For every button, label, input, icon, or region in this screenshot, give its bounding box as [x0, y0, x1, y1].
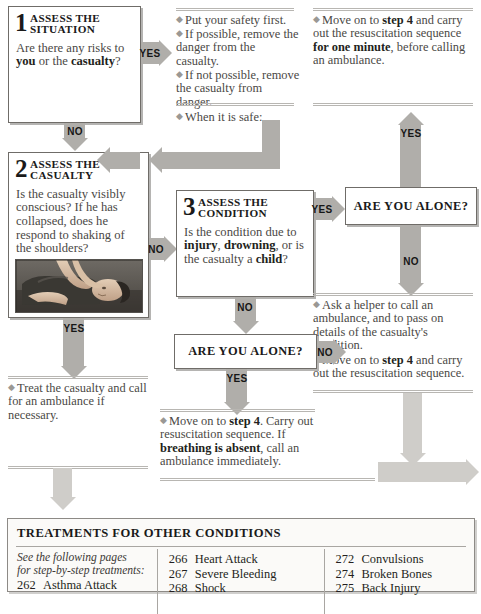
list-item[interactable]: 274 Broken Bones: [336, 567, 466, 582]
safety-note: ◆Put your safety first. ◆If possible, re…: [176, 13, 300, 124]
step-3-question: Is the condition due to injury, drowning…: [177, 220, 313, 271]
treat-note-rule: [8, 376, 148, 379]
label-alone-mid-yes: YES: [214, 373, 260, 384]
step-1-q-you: you: [16, 54, 36, 68]
entry-name: Shock: [195, 581, 324, 596]
treat-note: ◆Treat the casualty and call for an ambu…: [8, 381, 154, 422]
step-2-box: 2 ASSESS THECASUALTY Is the casualty vis…: [8, 152, 149, 318]
step-1-q-end: ?: [115, 54, 121, 68]
step-2-number: 2: [15, 158, 27, 180]
entry-page: 268: [169, 581, 195, 596]
treat-note-rule-bottom: [8, 466, 148, 469]
label-alone-mid-no: NO: [313, 347, 337, 358]
helper-step4: step 4: [382, 352, 413, 366]
label-alone-right-yes: YES: [388, 128, 434, 139]
panel-down-arrow-shaft: [53, 468, 72, 497]
list-item[interactable]: 268 Shock: [169, 581, 324, 596]
safety-bullet-2: ◆If possible, remove the danger from the…: [176, 27, 300, 68]
step3-drowning: drowning: [224, 238, 276, 252]
return-elbow-head-outer: [97, 147, 110, 173]
step-3-title: ASSESS THECONDITION: [198, 196, 268, 220]
entry-page: 267: [169, 567, 195, 582]
entry-name: Back Injury: [362, 581, 466, 596]
list-item[interactable]: 262 Asthma Attack: [17, 578, 157, 593]
treatments-lead: See the following pages for step-by-step…: [17, 552, 157, 578]
entry-name: Asthma Attack: [43, 578, 157, 593]
breathing-step4: step 4: [229, 414, 260, 428]
bottom-right-horizontal-head: [466, 459, 479, 485]
step-3-header: 3 ASSESS THECONDITION: [177, 191, 313, 220]
step-2-title: ASSESS THECASUALTY: [30, 158, 100, 182]
treatments-lead-line-1: See the following pages: [17, 552, 157, 565]
step-1-q-casualty: casualty: [71, 54, 115, 68]
helper-note-rule: [313, 293, 473, 296]
bottom-right-down-arrow-shaft: [403, 393, 422, 453]
helper-note-rule-bottom: [313, 390, 473, 393]
treatments-panel-title: TREATMENTS FOR OTHER CONDITIONS: [8, 519, 474, 546]
entry-page: 266: [169, 552, 195, 567]
breathing-note: ◆Move on to step 4. Carry out resuscitat…: [160, 414, 320, 469]
step3-injury: injury: [184, 238, 218, 252]
treatments-columns: See the following pages for step-by-step…: [8, 547, 474, 596]
breathing-absent: breathing is absent: [160, 441, 260, 455]
label-alone-right-no: NO: [388, 256, 434, 267]
one-minute-rule-bottom: [313, 103, 473, 106]
bottom-right-horizontal-shaft: [378, 462, 466, 482]
step1-no-arrow-head: [62, 138, 88, 151]
label-step2-no: NO: [144, 244, 168, 255]
label-step2-yes: YES: [51, 323, 97, 334]
step3-child: child: [256, 252, 283, 266]
treatments-panel: TREATMENTS FOR OTHER CONDITIONS See the …: [7, 518, 475, 592]
safety-note-rule-bottom: [176, 103, 294, 106]
step-1-q-mid: or the: [36, 54, 71, 68]
return-elbow-shaft-2: [110, 152, 140, 169]
step-1-number: 1: [15, 12, 27, 34]
one-minute-step4: step 4: [382, 13, 413, 27]
list-item[interactable]: 266 Heart Attack: [169, 552, 324, 567]
safety-bullet-1: ◆Put your safety first.: [176, 13, 300, 27]
entry-page: 262: [17, 578, 43, 593]
return-elbow-head-inner: [149, 147, 162, 173]
decision-are-you-alone-middle: ARE YOU ALONE?: [174, 334, 317, 369]
list-item[interactable]: 267 Severe Bleeding: [169, 567, 324, 582]
safety-note-rule: [176, 8, 294, 11]
treatments-column-2: 266 Heart Attack 267 Severe Bleeding 268…: [157, 552, 324, 596]
treatments-column-1: See the following pages for step-by-step…: [17, 552, 157, 596]
decision-are-you-alone-right: ARE YOU ALONE?: [345, 187, 477, 225]
label-step1-no: NO: [52, 126, 98, 137]
step-1-box: 1 ASSESS THESITUATION Are there any risk…: [8, 6, 141, 123]
step-3-box: 3 ASSESS THECONDITION Is the condition d…: [176, 190, 314, 297]
step-3-number: 3: [183, 196, 195, 218]
step-1-title: ASSESS THESITUATION: [30, 12, 100, 36]
label-step1-yes: YES: [139, 48, 161, 59]
entry-page: 275: [336, 581, 362, 596]
alone-right-no-arrow-shaft: [400, 225, 421, 283]
step-1-header: 1 ASSESS THESITUATION: [9, 7, 140, 36]
list-item[interactable]: 275 Back Injury: [336, 581, 466, 596]
list-item[interactable]: 272 Convulsions: [336, 552, 466, 567]
step-2-question: Is the casualty visibly conscious? If he…: [9, 182, 148, 258]
label-step3-yes: YES: [310, 204, 334, 215]
step3-no-arrow-head: [233, 321, 259, 334]
one-minute-rule: [313, 8, 473, 11]
entry-name: Heart Attack: [195, 552, 324, 567]
entry-name: Broken Bones: [362, 567, 466, 582]
treatments-column-3: 272 Convulsions 274 Broken Bones 275 Bac…: [324, 552, 466, 596]
alone-right-yes-arrow-head: [398, 112, 424, 125]
treatments-lead-line-2: for step-by-step treatments:: [17, 565, 157, 578]
safety-bullet-4: ◆When it is safe:: [176, 110, 300, 124]
entry-page: 272: [336, 552, 362, 567]
entry-name: Severe Bleeding: [195, 567, 324, 582]
step-1-q-a: Are there any risks to: [16, 41, 124, 55]
return-elbow-shaft-vertical: [262, 120, 280, 158]
one-minute-duration: for one minute: [313, 40, 391, 54]
panel-down-arrow-head: [50, 497, 76, 510]
breathing-note-rule-bottom: [160, 478, 375, 481]
label-step3-no: NO: [222, 302, 268, 313]
entry-page: 274: [336, 567, 362, 582]
photo-illustration: [16, 260, 143, 313]
breathing-note-rule: [160, 409, 315, 412]
casualty-shake-photo: [15, 259, 143, 313]
one-minute-note: ◆Move on to step 4 and carry out the res…: [313, 13, 476, 68]
